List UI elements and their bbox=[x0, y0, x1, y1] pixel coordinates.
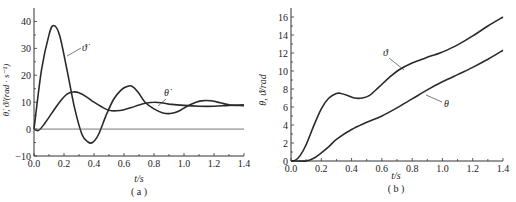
x-tick-label: 1.2 bbox=[208, 158, 221, 169]
y-tick-label: 2 bbox=[283, 138, 288, 149]
x-tick-label: 0.2 bbox=[315, 163, 328, 174]
annotation-theta-dot: θ̇ bbox=[164, 87, 172, 98]
y-tick-label: 14 bbox=[278, 30, 288, 41]
y-tick-label: 10 bbox=[278, 66, 288, 77]
y-tick-label: 10 bbox=[21, 97, 31, 108]
y-tick-label: 0 bbox=[26, 124, 31, 135]
x-tick-label: 0.6 bbox=[376, 163, 389, 174]
x-tick-label: 0.8 bbox=[406, 163, 419, 174]
y-tick-label: 16 bbox=[278, 12, 288, 23]
y-tick-label: 30 bbox=[21, 43, 31, 54]
curves-a bbox=[34, 26, 244, 144]
y-axis-label-a: θ̇, ϑ̇/(rad · s⁻¹) bbox=[1, 64, 11, 116]
leader-line bbox=[389, 58, 404, 70]
y-tick-label: 12 bbox=[278, 48, 288, 59]
y-tick-label: 20 bbox=[21, 70, 31, 81]
chart-panel-a: 0.00.20.40.60.81.01.21.4−10010203040 ϑ̇ … bbox=[1, 8, 250, 198]
series-line bbox=[34, 26, 244, 144]
curves-b bbox=[291, 17, 503, 161]
annotation-vartheta-dot: ϑ̇ bbox=[82, 42, 90, 53]
x-tick-label: 1.2 bbox=[466, 163, 479, 174]
y-tick-label: 8 bbox=[283, 84, 288, 95]
leader-line bbox=[67, 48, 81, 56]
y-axis-label-b: θ, ϑ/rad bbox=[257, 73, 268, 105]
x-tick-label: 1.0 bbox=[436, 163, 449, 174]
caption-b: ( b ) bbox=[388, 183, 405, 195]
chart-panel-b: 0.00.20.40.60.81.01.21.40246810121416 ϑ … bbox=[257, 8, 509, 195]
x-tick-label: 0.6 bbox=[118, 158, 131, 169]
caption-a: ( a ) bbox=[131, 186, 147, 198]
annotation-vartheta: ϑ bbox=[383, 47, 389, 58]
x-tick-label: 1.4 bbox=[238, 158, 251, 169]
y-tick-label: 4 bbox=[283, 120, 288, 131]
axes-b: 0.00.20.40.60.81.01.21.40246810121416 bbox=[278, 8, 509, 174]
series-line bbox=[291, 17, 503, 161]
x-tick-label: 0.4 bbox=[88, 158, 101, 169]
x-tick-label: 1.4 bbox=[497, 163, 510, 174]
series-line bbox=[34, 92, 244, 131]
x-tick-label: 1.0 bbox=[178, 158, 191, 169]
y-tick-label: 40 bbox=[21, 16, 31, 27]
y-tick-label: −10 bbox=[15, 151, 31, 162]
figure: 0.00.20.40.60.81.01.21.4−10010203040 ϑ̇ … bbox=[0, 0, 516, 202]
y-tick-label: 6 bbox=[283, 102, 288, 113]
x-tick-label: 0.2 bbox=[58, 158, 71, 169]
y-tick-label: 0 bbox=[283, 156, 288, 167]
x-tick-label: 0.8 bbox=[148, 158, 161, 169]
x-axis-label-a: t/s bbox=[134, 173, 144, 184]
annotation-theta: θ bbox=[444, 98, 449, 109]
x-tick-label: 0.4 bbox=[345, 163, 358, 174]
leader-line bbox=[426, 95, 442, 102]
x-axis-label-b: t/s bbox=[391, 170, 401, 181]
